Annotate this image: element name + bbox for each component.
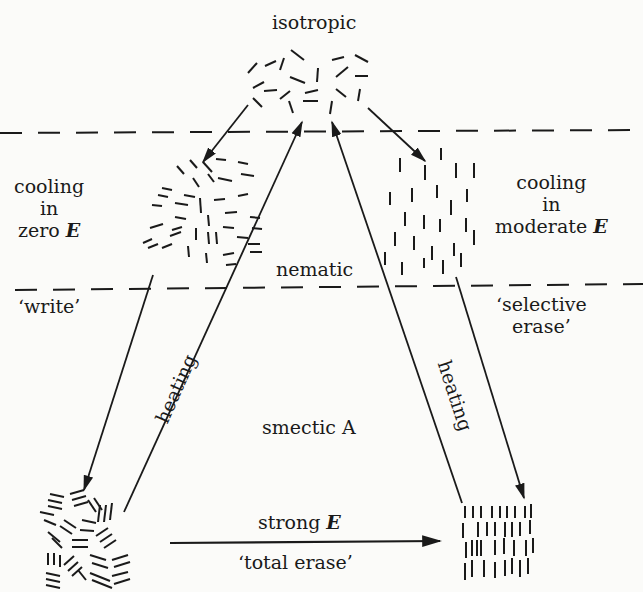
write-label: ‘write’ [18, 296, 80, 318]
arrow-isotropic-to-nematic-right [368, 108, 425, 161]
smectic-scattering-texture [40, 490, 130, 588]
isotropic-molecules [248, 50, 368, 114]
left-cooling-line3: zero E [14, 220, 84, 242]
right-cooling-line1: cooling [495, 172, 608, 194]
boundary-isotropic-nematic [0, 130, 643, 133]
total-erase-label: ‘total erase’ [238, 552, 353, 574]
field-symbol: E [593, 215, 607, 237]
phase-label-isotropic: isotropic [272, 12, 356, 34]
field-symbol: E [326, 511, 340, 533]
phase-label-nematic: nematic [276, 259, 353, 281]
selective-erase-line2: erase’ [496, 316, 587, 338]
arrow-heating-right [332, 122, 462, 503]
left-cooling-line1: cooling [14, 176, 84, 198]
selective-erase-line1: ‘selective [496, 294, 587, 316]
strong-field-label: strong E [258, 512, 341, 534]
left-cooling-label: cooling in zero E [14, 176, 84, 242]
right-cooling-label: cooling in moderate E [495, 172, 608, 238]
nematic-moderate-field-molecules [385, 148, 474, 275]
arrow-write [84, 275, 153, 490]
field-symbol: E [66, 219, 80, 241]
phase-label-smectic: smectic A [262, 417, 356, 439]
right-cooling-line3: moderate E [495, 216, 608, 238]
arrow-total-erase [170, 541, 440, 543]
left-cooling-line2: in [14, 198, 84, 220]
arrow-isotropic-to-nematic-left [203, 105, 248, 162]
boundary-nematic-smectic [15, 284, 643, 290]
right-cooling-line2: in [495, 194, 608, 216]
smectic-clear-texture [463, 504, 533, 580]
selective-erase-label: ‘selective erase’ [496, 294, 587, 338]
